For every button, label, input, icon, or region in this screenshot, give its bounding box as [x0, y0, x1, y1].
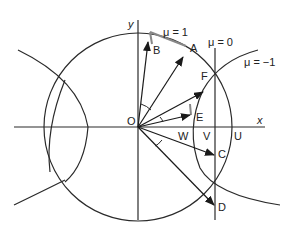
left-arc-bottom [14, 180, 65, 205]
point-label-B: B [153, 44, 160, 56]
point-label-V: V [203, 130, 211, 142]
left-arc-lower [49, 80, 65, 172]
point-label-F: F [201, 70, 208, 82]
point-label-C: C [218, 148, 226, 160]
diagram-canvas: y x O μ = 1 μ = 0 μ = −1 B A F E W V U C… [0, 0, 291, 227]
point-label-W: W [178, 130, 189, 142]
e-tick [190, 104, 191, 115]
y-axis-label: y [127, 18, 135, 30]
vector-OF [138, 92, 203, 127]
point-label-U: U [234, 130, 242, 142]
point-label-E: E [196, 111, 203, 123]
angle-mark-lower [155, 140, 162, 146]
origin-label: O [127, 115, 136, 127]
point-label-D: D [218, 201, 226, 213]
x-axis-label: x [256, 114, 263, 126]
mu-zero-label: μ = 0 [208, 36, 233, 48]
angle-mark-upper [141, 104, 151, 110]
mu-pos-label: μ = 1 [163, 26, 188, 38]
point-label-A: A [190, 42, 198, 54]
mu-neg-label: μ = −1 [244, 56, 275, 68]
vector-OE [138, 115, 190, 127]
